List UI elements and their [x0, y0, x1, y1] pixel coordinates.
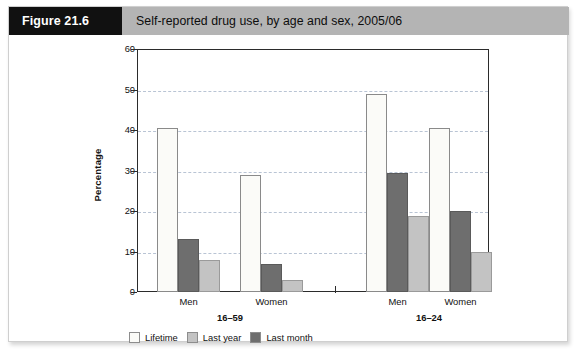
x-axis-group-separator-tick	[335, 286, 336, 293]
legend-swatch	[187, 332, 198, 343]
chart-area: Percentage 0102030405060 MenWomenMenWome…	[9, 35, 569, 343]
figure-header: Figure 21.6 Self-reported drug use, by a…	[9, 7, 569, 35]
bar	[471, 252, 492, 293]
legend-label: Last month	[266, 332, 312, 343]
bar	[387, 173, 408, 292]
bar	[366, 94, 387, 292]
bar	[450, 211, 471, 292]
legend-label: Last year	[203, 332, 242, 343]
x-axis-group-label: 16–59	[217, 312, 243, 323]
bar	[199, 260, 220, 292]
legend-swatch	[250, 332, 261, 343]
bar	[157, 128, 178, 292]
legend-item: Last year	[187, 332, 242, 343]
figure-frame: Figure 21.6 Self-reported drug use, by a…	[8, 6, 568, 342]
legend-item: Last month	[250, 332, 312, 343]
y-axis-title: Percentage	[92, 148, 103, 201]
legend-swatch	[129, 332, 140, 343]
y-axis-tick-mark	[131, 292, 137, 293]
x-axis-category-label: Men	[179, 296, 197, 307]
figure-title: Self-reported drug use, by age and sex, …	[122, 7, 569, 35]
figure-screenshot: Figure 21.6 Self-reported drug use, by a…	[0, 0, 577, 354]
bar	[408, 216, 429, 292]
legend-label: Lifetime	[145, 332, 178, 343]
bar	[261, 264, 282, 292]
x-axis-category-label: Men	[388, 296, 406, 307]
bar	[240, 175, 261, 292]
legend-item: Lifetime	[129, 332, 178, 343]
bar	[178, 239, 199, 292]
figure-number-badge: Figure 21.6	[9, 7, 122, 35]
bars-layer	[137, 49, 489, 292]
bar	[282, 280, 303, 292]
bar	[429, 128, 450, 292]
x-axis-category-label: Women	[444, 296, 476, 307]
x-axis-category-label: Women	[255, 296, 287, 307]
chart-legend: LifetimeLast yearLast month	[129, 332, 313, 343]
y-axis-tick-labels: 0102030405060	[105, 35, 135, 343]
x-axis-group-label: 16–24	[416, 312, 442, 323]
